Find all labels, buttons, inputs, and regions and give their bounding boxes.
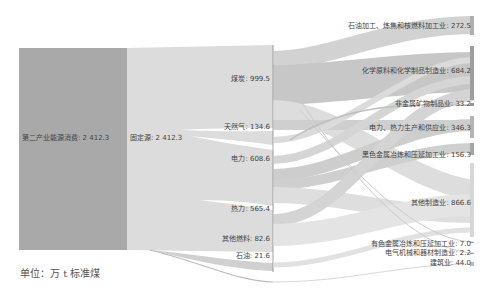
label-otherfuel: 其他燃料: 82.6 (222, 234, 271, 243)
label-chem: 化学原料和化学制品制造业: 684.2 (362, 66, 471, 75)
label-nonmetal: 非金属矿物制品业: 33.2 (395, 99, 471, 108)
label-ferrous: 黑色金属冶炼和压延加工业: 156.3 (362, 150, 471, 159)
label-oil: 石油: 21.6 (236, 251, 271, 260)
label-heat: 热力: 565.4 (231, 204, 270, 213)
label-petro: 石油加工、炼焦和核燃料加工业: 272.5 (348, 21, 471, 30)
label-fixed: 固定源: 2 412.3 (130, 133, 182, 142)
sankey-diagram: 第二产业能源消费: 2 412.3 固定源: 2 412.3 煤炭: 999.5… (0, 0, 494, 293)
label-gas: 天然气: 134.6 (224, 122, 270, 131)
label-othermfg: 其他制造业: 866.6 (411, 198, 471, 207)
label-nonferrous: 有色金属冶炼和压延加工业: 7.0 (371, 239, 471, 248)
label-power: 电力: 608.6 (231, 154, 270, 163)
label-total: 第二产业能源消费: 2 412.3 (22, 133, 109, 142)
unit-caption: 单位：万 t 标准煤 (20, 265, 100, 280)
label-coal: 煤炭: 999.5 (231, 74, 270, 83)
label-construction: 建筑业: 44.0 (430, 258, 471, 267)
label-electrical: 电气机械和器材制造业: 2.2 (385, 248, 471, 257)
label-elec: 电力、热力生产和供应业: 346.3 (369, 123, 471, 132)
node-total (19, 48, 127, 250)
